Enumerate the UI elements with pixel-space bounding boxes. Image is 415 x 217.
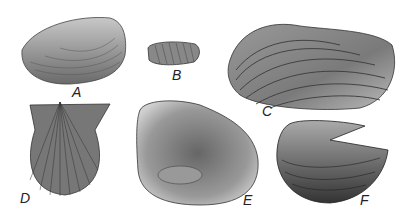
label-a: A xyxy=(72,84,81,100)
shell-illustration-plate: A B C D E F xyxy=(0,0,415,217)
shell-d xyxy=(30,102,110,196)
label-e: E xyxy=(243,192,252,208)
shell-c xyxy=(228,24,395,109)
label-d: D xyxy=(20,190,30,206)
shell-e xyxy=(137,101,258,205)
shell-a xyxy=(22,17,126,84)
shell-b xyxy=(148,42,199,65)
shell-f xyxy=(277,121,388,203)
label-c: C xyxy=(262,103,272,119)
label-b: B xyxy=(172,67,181,83)
label-f: F xyxy=(360,192,369,208)
shell-drawings xyxy=(0,0,415,217)
